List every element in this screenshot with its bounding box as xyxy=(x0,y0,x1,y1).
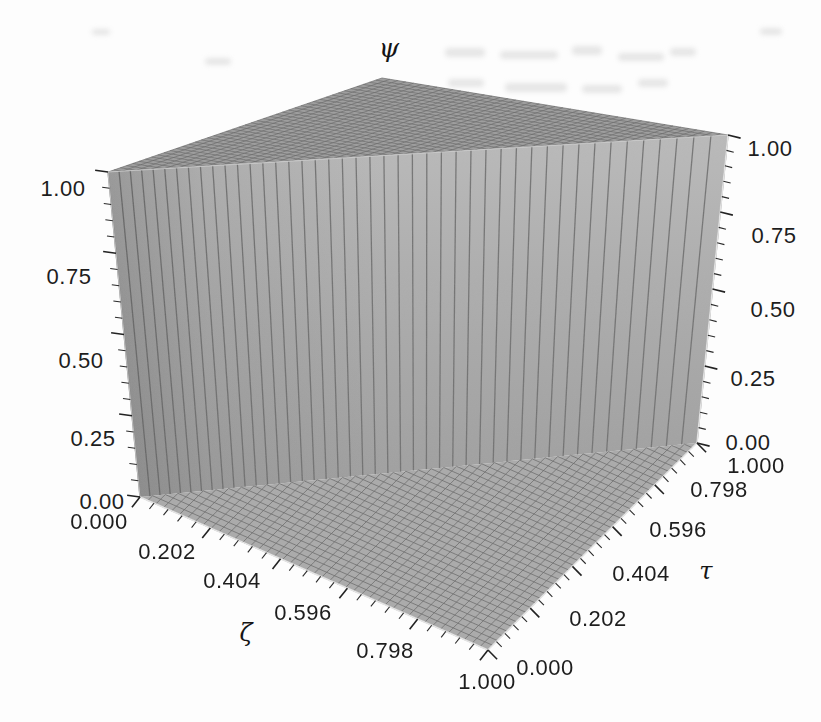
tick-label: 0.596 xyxy=(274,600,332,625)
tick-label: 0.000 xyxy=(70,509,128,534)
tick-label: 0.798 xyxy=(690,477,748,502)
tick-label: 0.25 xyxy=(71,426,116,451)
tick-label: 0.25 xyxy=(731,366,776,391)
tick-label: 0.202 xyxy=(569,606,627,631)
psi-axis-title: ψ xyxy=(379,33,400,63)
zeta-axis-title: ζ xyxy=(239,619,254,647)
tick-label: 0.404 xyxy=(203,568,261,593)
tick-label: 0.50 xyxy=(751,297,796,322)
figure-page: 0.000.250.500.751.00 0.000.250.500.751.0… xyxy=(0,0,821,722)
tick-label: 0.75 xyxy=(752,223,797,248)
tick-label: 0.00 xyxy=(726,430,771,455)
tick-label: 0.596 xyxy=(649,517,707,542)
tick-label: 1.00 xyxy=(41,176,86,201)
tick-label: 1.000 xyxy=(458,669,516,694)
tick-label: 0.75 xyxy=(47,264,92,289)
tick-label: 0.000 xyxy=(516,655,574,680)
tick-label: 1.000 xyxy=(727,453,785,478)
tau-axis-title: τ xyxy=(699,557,713,585)
tick-label: 0.798 xyxy=(356,638,414,663)
tick-label: 0.404 xyxy=(612,561,670,586)
tick-label: 0.50 xyxy=(59,348,104,373)
3d-surface-plot: 0.000.250.500.751.00 0.000.250.500.751.0… xyxy=(0,0,821,722)
tick-label: 0.202 xyxy=(138,539,196,564)
tick-label: 1.00 xyxy=(748,136,793,161)
